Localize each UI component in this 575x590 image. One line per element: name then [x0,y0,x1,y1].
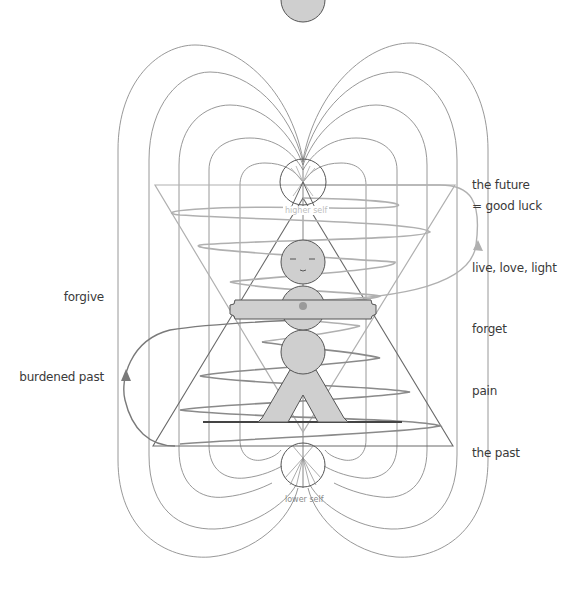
label-live-love-light: live, love, light [472,261,557,275]
lower-self-label: lower self [285,495,324,504]
label-burdened-past: burdened past [19,370,104,384]
label-pain: pain [472,384,497,398]
label-the-past: the past [472,446,520,460]
label-forget: forget [472,322,507,336]
figure-head [281,240,325,284]
heart-point [299,302,307,310]
label-good-luck: = good luck [472,199,542,213]
label-forgive: forgive [64,290,104,304]
higher-self-label: higher self [283,206,329,215]
past-arrowhead [121,369,131,381]
figure-belly [281,330,325,374]
figure-head [281,0,325,22]
future-arrowhead [473,240,483,251]
label-the-future: the future [472,178,530,192]
